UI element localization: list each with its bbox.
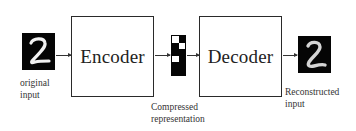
original-input-image [22,33,55,70]
digit-two-icon [298,36,331,73]
arrow-encoder-to-code [155,55,170,56]
digit-two-icon [22,33,55,70]
encoder-block: Encoder [71,16,154,97]
reconstructed-input-caption: Reconstructed input [285,87,339,110]
decoder-block: Decoder [199,16,282,97]
arrow-decoder-to-output [283,55,297,56]
caption-line: Reconstructed [285,87,339,99]
caption-line: input [285,99,339,111]
arrow-code-to-decoder [187,55,199,56]
caption-line: representation [151,114,205,126]
encoder-label: Encoder [80,46,145,68]
arrow-input-to-encoder [56,55,71,56]
compressed-representation-caption: Compressed representation [151,102,205,125]
caption-line: input [20,90,50,102]
decoder-label: Decoder [208,46,274,68]
compressed-code-vector [171,35,186,76]
reconstructed-input-image [298,36,331,73]
original-input-caption: original input [20,78,50,101]
code-cell [179,69,186,76]
caption-line: original [20,78,50,90]
caption-line: Compressed [151,102,205,114]
